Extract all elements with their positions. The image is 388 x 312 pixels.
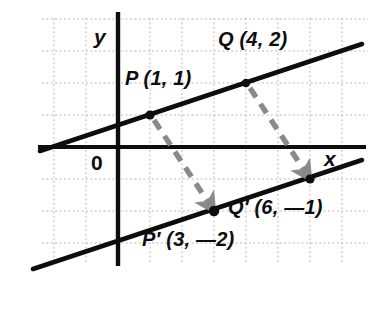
grid-lines <box>42 18 368 262</box>
coordinate-plane-figure: y x 0 P (1, 1) Q (4, 2) P′ (3, —2) Q′ (6… <box>0 0 388 312</box>
preimage-line-PQ <box>40 44 362 151</box>
point-label-q-prime: Q′ (6, —1) <box>228 197 323 217</box>
point-label-q: Q (4, 2) <box>218 29 287 49</box>
point-label-p-prime: P′ (3, —2) <box>142 229 234 249</box>
point-P-prime <box>209 206 219 216</box>
point-Q <box>242 79 250 87</box>
point-label-p: P (1, 1) <box>125 68 191 88</box>
origin-label: 0 <box>91 152 103 173</box>
y-axis-label: y <box>94 26 106 47</box>
x-axis-label: x <box>324 148 336 169</box>
point-Q-prime <box>305 174 314 183</box>
point-P <box>145 110 154 119</box>
